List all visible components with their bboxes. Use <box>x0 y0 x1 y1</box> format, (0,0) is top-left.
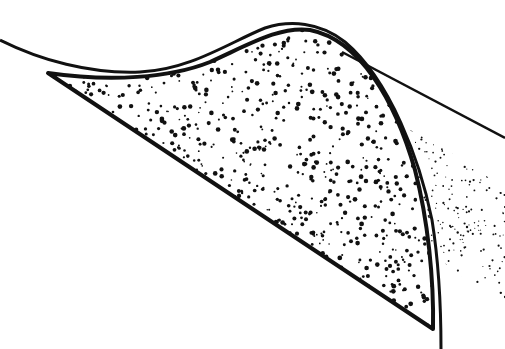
diagram-canvas <box>0 0 505 349</box>
illustration <box>0 0 505 349</box>
stippled-region <box>38 18 441 336</box>
